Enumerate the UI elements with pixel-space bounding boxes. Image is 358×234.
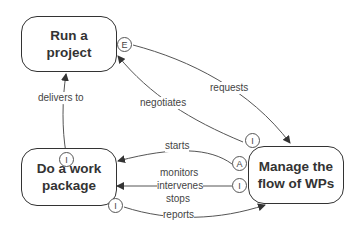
port-a: A [232,156,247,171]
node-label: flow of WPs [258,175,335,192]
port-e: E [117,37,132,52]
node-label: project [46,44,91,61]
edge-label-monitors: monitors [160,167,198,179]
port-i: I [245,133,260,148]
node-label: package [37,177,102,194]
edge-label-negotiates: negotiates [140,97,186,109]
edge-label-stops: stops [166,193,190,205]
node-run-project[interactable]: Run aproject [21,16,117,72]
port-i: I [59,152,74,167]
edge-label-starts: starts [165,140,189,152]
edge-label-delivers-to: delivers to [38,92,84,104]
node-label: Manage the [258,158,335,175]
edge-label-intervenes: intervenes [157,180,203,192]
edge-label-reports: reports [163,209,194,221]
port-i: I [108,198,123,213]
node-manage-flow[interactable]: Manage theflow of WPs [248,146,344,204]
edge-label-requests: requests [210,82,248,94]
port-i: I [232,178,247,193]
node-label: Run a [46,27,91,44]
